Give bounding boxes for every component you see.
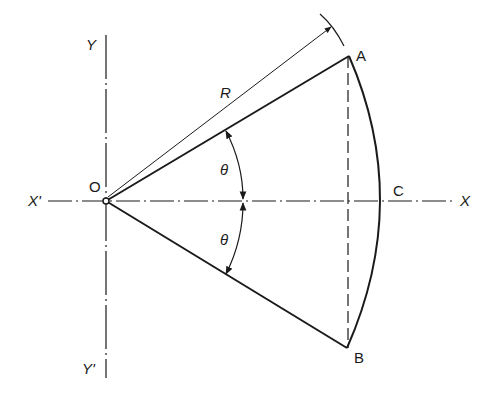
label-point-c: C — [393, 182, 404, 199]
label-axis-y: Y — [86, 36, 97, 53]
origin-point — [103, 198, 109, 204]
arc-acb — [347, 56, 380, 348]
label-point-a: A — [356, 47, 366, 64]
dimension-extension-tick — [320, 14, 344, 46]
radius-oa — [106, 56, 349, 201]
label-axis-x-neg: X' — [27, 192, 42, 209]
label-axis-x: X — [459, 192, 471, 209]
label-point-b: B — [354, 349, 364, 366]
sector-diagram: O A B C X X' Y Y' R θ θ — [0, 0, 496, 396]
angle-arc-lower — [226, 203, 243, 274]
label-angle-upper: θ — [220, 161, 228, 178]
label-radius: R — [220, 84, 231, 101]
radius-ob — [106, 201, 347, 348]
label-origin: O — [89, 178, 101, 195]
label-axis-y-neg: Y' — [82, 360, 96, 377]
angle-arc-upper — [226, 131, 243, 199]
label-angle-lower: θ — [220, 231, 228, 248]
